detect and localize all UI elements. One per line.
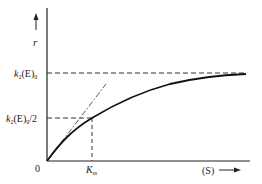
x-arrow-icon: [219, 168, 241, 173]
km-label: Km: [85, 164, 98, 176]
rate-curve: [47, 74, 246, 161]
vmax-label: k2(E)0: [14, 68, 37, 80]
x-axis-label: (S): [202, 165, 214, 177]
y-axis-label: r: [33, 36, 38, 48]
michaelis-menten-chart: r k2(E)0 k2(E)0/2 0 Km (S): [0, 0, 262, 184]
origin-label: 0: [35, 163, 40, 174]
half-vmax-label: k2(E)0/2: [6, 113, 37, 125]
y-arrow-icon: [34, 13, 39, 30]
